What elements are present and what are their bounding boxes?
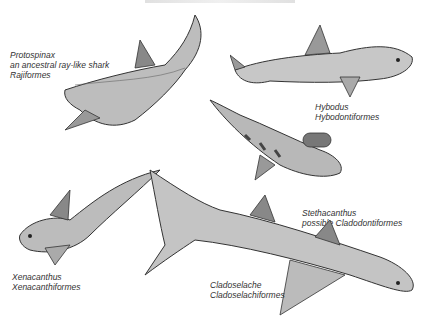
label-order: Xenacanthiformes — [12, 282, 81, 292]
protospinax-illustration — [55, 10, 215, 150]
label-order: Cladoselachiformes — [210, 290, 285, 300]
cropped-title-line — [145, 0, 295, 3]
label-genus: Cladoselache — [210, 280, 285, 290]
label-cladoselache: Cladoselache Cladoselachiformes — [210, 280, 285, 300]
hybodus-illustration — [230, 15, 420, 100]
label-xenacanthus: Xenacanthus Xenacanthiformes — [12, 272, 81, 292]
label-genus: Xenacanthus — [12, 272, 81, 282]
